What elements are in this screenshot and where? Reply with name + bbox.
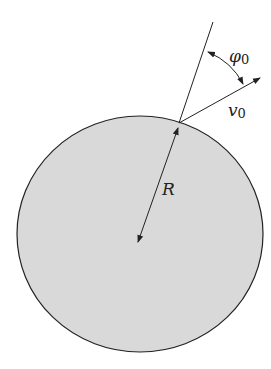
svg-text:φ0: φ0 (229, 46, 249, 67)
diagram: φ0 v0 R (0, 0, 271, 369)
planet-circle (17, 116, 263, 352)
svg-text:R: R (161, 179, 175, 199)
velocity-arrow (179, 78, 260, 123)
radial-line (179, 22, 213, 123)
svg-text:v0: v0 (228, 100, 246, 121)
